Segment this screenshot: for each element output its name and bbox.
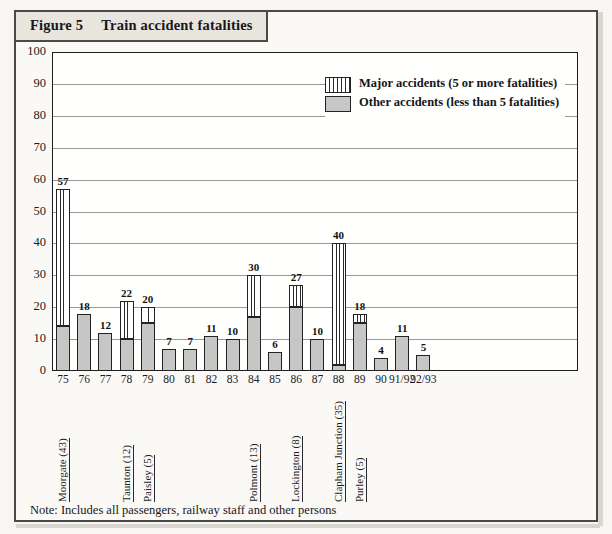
bar-85[interactable] bbox=[268, 352, 282, 371]
x-tick-label: 87 bbox=[312, 373, 324, 385]
bar-value-label: 7 bbox=[166, 335, 172, 347]
y-tick-label: 40 bbox=[16, 235, 46, 250]
bar-segment-other-accidents bbox=[310, 339, 324, 371]
bar-value-label: 30 bbox=[248, 261, 259, 273]
bar-segment-other-accidents bbox=[374, 358, 388, 371]
bar-segment-other-accidents bbox=[183, 349, 197, 371]
y-tick-label: 20 bbox=[16, 299, 46, 314]
bar-83[interactable] bbox=[226, 339, 240, 371]
bar-value-label: 12 bbox=[100, 319, 111, 331]
bar-segment-other-accidents bbox=[332, 365, 346, 371]
bar-value-label: 18 bbox=[79, 300, 90, 312]
bar-81[interactable] bbox=[183, 349, 197, 371]
bar-segment-other-accidents bbox=[162, 349, 176, 371]
bar-value-label: 5 bbox=[421, 341, 427, 353]
x-axis-ticks: 7576777879808182838485868788899091/9292/… bbox=[52, 373, 578, 389]
y-tick-label: 60 bbox=[16, 172, 46, 187]
bar-88[interactable] bbox=[332, 243, 346, 371]
x-tick-label: 78 bbox=[121, 373, 133, 385]
x-tick-label: 76 bbox=[78, 373, 90, 385]
x-tick-label: 84 bbox=[248, 373, 260, 385]
chart-legend: Major accidents (5 or more fatalities) O… bbox=[325, 76, 565, 118]
annotation-purley: Purley (5) bbox=[353, 458, 367, 502]
bar-82[interactable] bbox=[204, 336, 218, 371]
annotation-moorgate: Moorgate (43) bbox=[56, 438, 70, 502]
legend-item-other: Other accidents (less than 5 fatalities) bbox=[325, 95, 565, 112]
accident-annotations: Moorgate (43)Taunton (12)Paisley (5)Polm… bbox=[52, 392, 578, 502]
x-tick-label: 88 bbox=[333, 373, 345, 385]
bar-segment-major-accidents bbox=[120, 301, 134, 339]
y-tick-label: 100 bbox=[16, 44, 46, 59]
bar-92-93[interactable] bbox=[416, 355, 430, 371]
bar-75[interactable] bbox=[56, 189, 70, 371]
figure-label: Figure 5 bbox=[30, 17, 83, 33]
bar-value-label: 7 bbox=[187, 335, 193, 347]
legend-swatch-major-icon bbox=[325, 77, 351, 93]
bar-value-label: 18 bbox=[354, 300, 365, 312]
bar-value-label: 6 bbox=[272, 338, 278, 350]
bar-value-label: 11 bbox=[206, 322, 216, 334]
bar-value-label: 10 bbox=[227, 325, 238, 337]
bar-segment-other-accidents bbox=[395, 336, 409, 371]
x-tick-label: 85 bbox=[269, 373, 281, 385]
y-tick-label: 90 bbox=[16, 76, 46, 91]
bar-87[interactable] bbox=[310, 339, 324, 371]
annotation-polmont: Polmont (13) bbox=[247, 444, 261, 502]
bar-90[interactable] bbox=[374, 358, 388, 371]
x-tick-label: 79 bbox=[142, 373, 154, 385]
bar-segment-other-accidents bbox=[226, 339, 240, 371]
bar-segment-other-accidents bbox=[353, 323, 367, 371]
bar-segment-major-accidents bbox=[247, 275, 261, 316]
x-tick-label: 77 bbox=[100, 373, 112, 385]
figure-heading: Figure 5Train accident fatalities bbox=[30, 17, 253, 34]
bar-value-label: 10 bbox=[312, 325, 323, 337]
bar-79[interactable] bbox=[141, 307, 155, 371]
bar-segment-major-accidents bbox=[56, 189, 70, 326]
bar-value-label: 40 bbox=[333, 229, 344, 241]
bar-segment-major-accidents bbox=[141, 307, 155, 323]
bar-value-label: 57 bbox=[58, 175, 69, 187]
y-tick-label: 0 bbox=[16, 363, 46, 378]
y-tick-label: 80 bbox=[16, 108, 46, 123]
bar-value-label: 4 bbox=[378, 344, 384, 356]
figure-note: Note: Includes all passengers, railway s… bbox=[30, 503, 336, 518]
annotation-clapham: Clapham Junction (35) bbox=[332, 401, 346, 502]
bar-77[interactable] bbox=[98, 333, 112, 371]
bar-segment-other-accidents bbox=[120, 339, 134, 371]
bar-84[interactable] bbox=[247, 275, 261, 371]
x-tick-label: 80 bbox=[163, 373, 175, 385]
x-tick-label: 81 bbox=[184, 373, 196, 385]
bar-segment-other-accidents bbox=[268, 352, 282, 371]
bar-value-label: 11 bbox=[397, 322, 407, 334]
bar-76[interactable] bbox=[77, 314, 91, 371]
bar-value-label: 22 bbox=[121, 287, 132, 299]
legend-swatch-other-icon bbox=[325, 96, 351, 112]
bar-89[interactable] bbox=[353, 314, 367, 371]
bar-segment-other-accidents bbox=[416, 355, 430, 371]
annotation-taunton: Taunton (12) bbox=[120, 445, 134, 502]
bar-segment-other-accidents bbox=[77, 314, 91, 371]
y-axis-ticks: 0102030405060708090100 bbox=[14, 52, 46, 371]
annotation-paisley: Paisley (5) bbox=[141, 455, 155, 502]
y-tick-label: 50 bbox=[16, 204, 46, 219]
bar-segment-other-accidents bbox=[247, 317, 261, 371]
page-shadow-right bbox=[598, 12, 603, 526]
bar-80[interactable] bbox=[162, 349, 176, 371]
x-tick-label: 92/93 bbox=[410, 373, 436, 385]
bar-segment-other-accidents bbox=[289, 307, 303, 371]
page-title: Train accident fatalities bbox=[101, 17, 252, 33]
bar-segment-other-accidents bbox=[204, 336, 218, 371]
x-tick-label: 82 bbox=[206, 373, 218, 385]
bar-segment-other-accidents bbox=[56, 326, 70, 371]
bar-segment-major-accidents bbox=[332, 243, 346, 364]
bar-value-label: 20 bbox=[142, 293, 153, 305]
legend-label-major: Major accidents (5 or more fatalities) bbox=[359, 76, 557, 91]
bar-91-92[interactable] bbox=[395, 336, 409, 371]
y-tick-label: 10 bbox=[16, 331, 46, 346]
bar-78[interactable] bbox=[120, 301, 134, 371]
bar-86[interactable] bbox=[289, 285, 303, 371]
x-tick-label: 90 bbox=[375, 373, 387, 385]
bar-segment-major-accidents bbox=[289, 285, 303, 307]
legend-item-major: Major accidents (5 or more fatalities) bbox=[325, 76, 565, 93]
y-tick-label: 70 bbox=[16, 140, 46, 155]
